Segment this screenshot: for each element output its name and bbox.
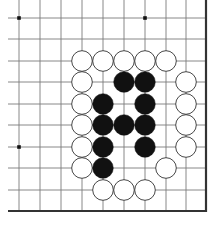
white-stone[interactable] (93, 180, 114, 201)
white-stone[interactable] (176, 115, 197, 136)
star-point-icon (17, 145, 21, 149)
black-stone[interactable] (93, 137, 114, 158)
black-stone[interactable] (135, 72, 156, 93)
white-stone[interactable] (93, 51, 114, 72)
go-board[interactable] (0, 0, 213, 226)
black-stone[interactable] (114, 115, 135, 136)
white-stone[interactable] (72, 158, 93, 179)
white-stone[interactable] (72, 72, 93, 93)
black-stone[interactable] (135, 115, 156, 136)
black-stone[interactable] (135, 137, 156, 158)
white-stone[interactable] (176, 94, 197, 115)
white-stone[interactable] (72, 94, 93, 115)
white-stone[interactable] (135, 51, 156, 72)
black-stone[interactable] (93, 158, 114, 179)
white-stone[interactable] (114, 180, 135, 201)
black-stone[interactable] (114, 72, 135, 93)
white-stone[interactable] (176, 137, 197, 158)
white-stone[interactable] (156, 158, 177, 179)
black-stone[interactable] (135, 94, 156, 115)
black-stone[interactable] (93, 94, 114, 115)
white-stone[interactable] (135, 180, 156, 201)
white-stone[interactable] (176, 72, 197, 93)
white-stone[interactable] (72, 137, 93, 158)
star-point-icon (143, 16, 147, 20)
white-stone[interactable] (114, 51, 135, 72)
star-point-icon (17, 16, 21, 20)
black-stone[interactable] (93, 115, 114, 136)
white-stone[interactable] (156, 51, 177, 72)
white-stone[interactable] (72, 115, 93, 136)
white-stone[interactable] (72, 51, 93, 72)
stones-layer (72, 51, 197, 201)
